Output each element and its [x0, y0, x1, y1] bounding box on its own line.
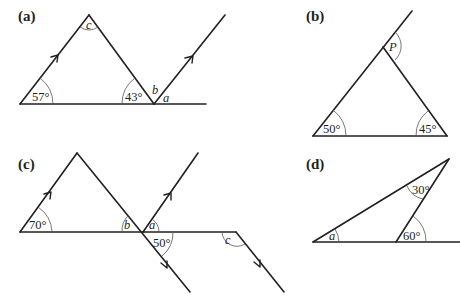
diagram-a-label: (a) [18, 8, 36, 25]
left-side-extended [313, 11, 412, 136]
angle-43: 43° [125, 90, 143, 104]
diagram-a: (a) 57° c 43° b a [18, 8, 225, 105]
angle-b: b [124, 218, 130, 232]
angle-arc [335, 229, 339, 242]
diagram-d-label: (d) [306, 156, 324, 173]
angle-60: 60° [403, 229, 421, 243]
triangle-right-side [89, 15, 154, 104]
angle-c: c [225, 233, 231, 247]
angle-a: a [163, 91, 169, 105]
angle-57: 57° [32, 90, 50, 104]
angle-c: c [86, 18, 92, 32]
angle-50: 50° [323, 122, 341, 136]
angle-45: 45° [419, 122, 437, 136]
diagram-d: (d) a 30° 60° [306, 156, 460, 243]
angle-50: 50° [153, 236, 171, 250]
diagram-b: (b) 50° 45° P [306, 8, 447, 136]
right-side [383, 47, 447, 136]
diagram-b-label: (b) [306, 8, 324, 25]
angle-a: a [329, 229, 335, 243]
angle-P: P [388, 40, 397, 54]
triangle-left-side [20, 15, 89, 104]
transversal-line [77, 153, 190, 292]
diagram-c: (c) 70° b a 50° c [18, 153, 284, 292]
angle-70: 70° [29, 218, 47, 232]
angle-30: 30° [412, 183, 430, 197]
diagram-c-label: (c) [18, 156, 35, 173]
angle-diagrams: (a) 57° c 43° b a (b) 50° 45° P (c) [0, 0, 460, 303]
angle-b: b [152, 83, 158, 97]
angle-a: a [149, 218, 155, 232]
